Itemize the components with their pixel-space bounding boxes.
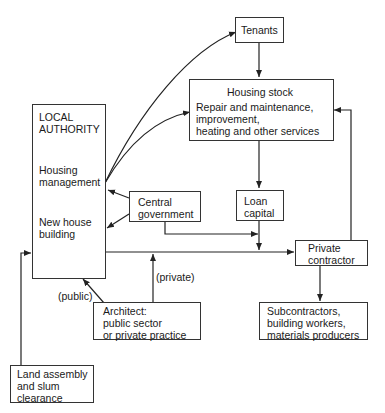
land-assembly-1: Land assembly — [17, 368, 93, 380]
housing-stock-line-3: heating and other services — [196, 125, 333, 137]
architect-3: or private practice — [103, 329, 200, 341]
subcontractors-2: building workers, — [267, 317, 367, 329]
subcontractors-node: Subcontractors, building workers, materi… — [259, 302, 368, 340]
housing-management-1: Housing — [39, 164, 105, 176]
architect-1: Architect: — [103, 305, 200, 317]
land-assembly-2: and slum — [17, 380, 93, 392]
local-authority-title-2: AUTHORITY — [39, 123, 105, 135]
central-government-node: Central government — [129, 191, 201, 222]
local-authority-node: LOCAL AUTHORITY Housing management New h… — [32, 104, 106, 279]
central-government-2: government — [138, 208, 200, 220]
edge-central-to-new-build — [107, 214, 129, 228]
subcontractors-1: Subcontractors, — [267, 305, 367, 317]
edge-land-to-new-build — [21, 253, 31, 365]
diagram-canvas: Tenants Housing stock Repair and mainten… — [0, 0, 385, 413]
private-contractor-1: Private — [308, 242, 367, 254]
edge-management-to-housing-stock — [105, 112, 190, 183]
land-assembly-node: Land assembly and slum clearance — [10, 365, 94, 403]
architect-2: public sector — [103, 317, 200, 329]
housing-stock-title: Housing stock — [196, 86, 333, 98]
private-contractor-node: Private contractor — [295, 240, 368, 266]
edge-label-private: (private) — [156, 271, 195, 283]
land-assembly-3: clearance — [17, 392, 93, 404]
edge-central-to-management — [108, 190, 129, 198]
housing-stock-node: Housing stock Repair and maintenance, im… — [189, 79, 334, 141]
loan-capital-1: Loan — [244, 195, 283, 207]
loan-capital-2: capital — [244, 207, 283, 219]
subcontractors-3: materials producers — [267, 329, 367, 341]
tenants-label: Tenants — [241, 24, 283, 36]
housing-stock-line-1: Repair and maintenance, — [196, 101, 333, 113]
local-authority-title-1: LOCAL — [39, 111, 105, 123]
private-contractor-2: contractor — [308, 254, 367, 266]
housing-management-2: management — [39, 176, 105, 188]
new-house-building-1: New house — [39, 216, 105, 228]
loan-capital-node: Loan capital — [236, 190, 284, 221]
central-government-1: Central — [138, 196, 200, 208]
architect-node: Architect: public sector or private prac… — [93, 302, 201, 340]
new-house-building-2: building — [39, 228, 105, 240]
tenants-node: Tenants — [235, 17, 284, 43]
edge-label-public: (public) — [58, 290, 92, 302]
edge-contractor-to-housing-stock — [334, 110, 351, 240]
housing-stock-line-2: improvement, — [196, 113, 333, 125]
edge-central-to-junction — [165, 221, 258, 234]
